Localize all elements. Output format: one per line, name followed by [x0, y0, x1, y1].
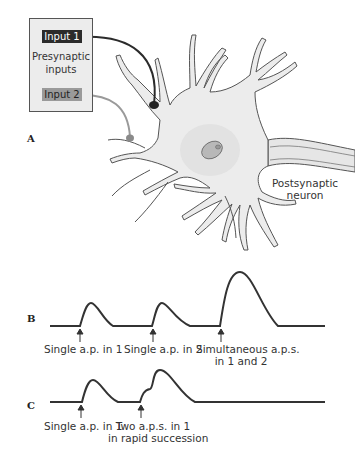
trace-b-label-3: Simultaneous a.p.s. in 1 and 2 — [196, 343, 286, 367]
input1-synapse — [149, 101, 159, 109]
trace-c-label-2-line2: in rapid succession — [108, 432, 198, 444]
postsynaptic-line1: Postsynaptic — [265, 177, 345, 189]
postsynaptic-line2: neuron — [265, 189, 345, 201]
panel-label-a: A — [27, 133, 35, 144]
postsynaptic-label: Postsynaptic neuron — [265, 177, 345, 201]
trace-b-label-3-line2: in 1 and 2 — [196, 355, 286, 367]
trace-b — [50, 272, 325, 326]
trace-c — [50, 370, 325, 402]
panel-label-b: B — [27, 313, 35, 324]
trace-b-label-2: Single a.p. in 2 — [124, 343, 202, 355]
trace-c-label-2: Two a.p.s. in 1 in rapid succession — [108, 420, 198, 444]
presynaptic-inputs-box: Input 1 Presynaptic inputs Input 2 — [29, 18, 93, 112]
panel-label-c: C — [27, 400, 35, 411]
presynaptic-title: Presynaptic inputs — [30, 50, 92, 76]
presynaptic-title-line1: Presynaptic — [30, 50, 92, 63]
input1-label: Input 1 — [42, 30, 82, 43]
nucleolus — [216, 145, 221, 149]
input2-synapse — [126, 135, 134, 142]
trace-c-label-2-line1: Two a.p.s. in 1 — [108, 420, 198, 432]
input2-label: Input 2 — [42, 88, 82, 101]
presynaptic-title-line2: inputs — [30, 63, 92, 76]
axon — [268, 138, 355, 172]
trace-b-label-3-line1: Simultaneous a.p.s. — [196, 343, 286, 355]
trace-b-label-1: Single a.p. in 1 — [44, 343, 122, 355]
